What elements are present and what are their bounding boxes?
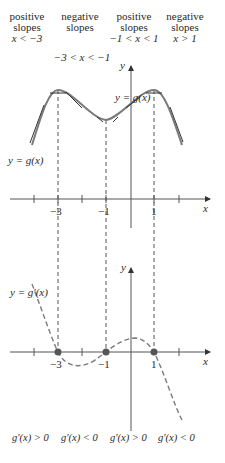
bottom-x-axis-label: x [203,356,208,367]
top-axes [10,66,210,228]
top-tick-neg1: −1 [98,206,110,217]
sign-label-1: g′(x) > 0 [12,432,49,443]
g-curve-label-inner: y = g(x) [115,92,151,103]
dashed-guides [58,90,154,352]
sign-label-2: g′(x) < 0 [61,432,98,443]
top-tick-1: 1 [151,206,157,217]
bottom-tick-neg1: −1 [98,359,110,370]
g-curve [32,90,182,145]
graph-canvas [0,0,225,463]
sign-label-4: g′(x) < 0 [158,432,195,443]
bottom-tick-1: 1 [151,359,157,370]
bottom-y-axis-label: y [121,262,126,273]
g-prime-curve-label: y = g′(x) [10,287,48,298]
g-curve-label-outer: y = g(x) [8,155,44,166]
top-tick-neg3: −3 [50,206,62,217]
bottom-tick-neg3: −3 [50,359,62,370]
top-x-axis-label: x [203,203,208,214]
sign-label-3: g′(x) > 0 [110,432,147,443]
top-y-axis-label: y [120,60,125,71]
